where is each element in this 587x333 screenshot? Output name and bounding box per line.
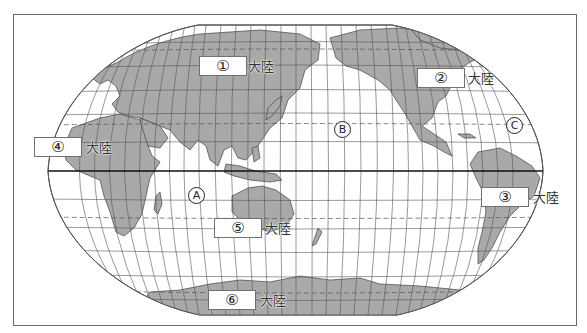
continent-1-number: ① (216, 59, 229, 74)
ocean-marker-c[interactable]: C (506, 117, 523, 134)
continent-2-suffix: 大陸 (468, 72, 494, 85)
ocean-marker-b[interactable]: B (334, 121, 351, 138)
continent-6-suffix: 大陸 (260, 294, 286, 307)
continent-1-suffix: 大陸 (248, 60, 274, 73)
continent-3-number: ③ (498, 190, 511, 205)
continent-5-box[interactable]: ⑤ (214, 218, 262, 238)
continent-4-suffix: 大陸 (86, 141, 112, 154)
ocean-b-letter: B (339, 124, 347, 135)
continent-5-suffix: 大陸 (265, 222, 291, 235)
world-map (0, 0, 587, 333)
continent-6-number: ⑥ (225, 293, 238, 308)
continent-3-suffix: 大陸 (533, 191, 559, 204)
ocean-a-letter: A (193, 190, 201, 201)
continent-4-number: ④ (51, 140, 64, 155)
continent-2-number: ② (434, 71, 447, 86)
continent-3-box[interactable]: ③ (481, 187, 529, 207)
ocean-marker-a[interactable]: A (188, 187, 205, 204)
continent-1-box[interactable]: ① (199, 56, 247, 76)
continent-4-box[interactable]: ④ (34, 137, 82, 157)
continent-2-box[interactable]: ② (417, 68, 465, 88)
continent-6-box[interactable]: ⑥ (208, 290, 256, 310)
ocean-c-letter: C (511, 120, 519, 131)
continent-5-number: ⑤ (231, 221, 244, 236)
